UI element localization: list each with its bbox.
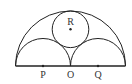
point-P-dot (42, 65, 44, 67)
point-Q-dot (97, 65, 99, 67)
geometry-diagram: R P O Q (0, 0, 132, 84)
right-semicircle (71, 38, 126, 66)
label-P: P (40, 69, 46, 80)
left-semicircle (16, 38, 71, 66)
label-R: R (67, 16, 74, 27)
label-O: O (67, 69, 74, 80)
point-R-dot (69, 28, 71, 30)
label-Q: Q (94, 69, 102, 80)
